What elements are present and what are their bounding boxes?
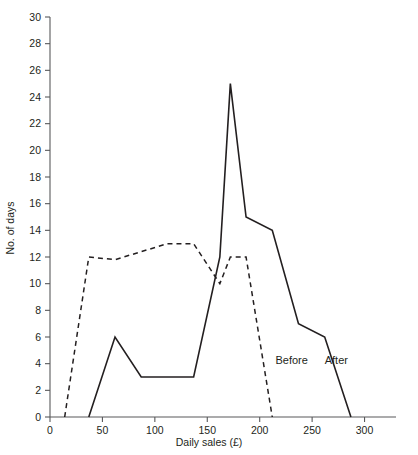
y-tick-label: 14: [29, 224, 41, 236]
x-tick-label: 250: [303, 424, 321, 436]
y-axis-tick-group: 024681012141618202224262830: [29, 11, 50, 423]
x-tick-label: 200: [251, 424, 269, 436]
y-tick-label: 0: [35, 411, 41, 423]
y-tick-label: 6: [35, 331, 41, 343]
y-tick-label: 18: [29, 171, 41, 183]
series-label-after: After: [325, 354, 349, 366]
x-tick-label: 300: [356, 424, 374, 436]
y-tick-label: 2: [35, 384, 41, 396]
series-label-before: Before: [275, 354, 307, 366]
y-tick-label: 28: [29, 37, 41, 49]
series-line-before: [65, 244, 273, 417]
y-tick-label: 20: [29, 144, 41, 156]
y-tick-label: 8: [35, 304, 41, 316]
x-tick-label: 100: [146, 424, 164, 436]
x-tick-label: 150: [199, 424, 217, 436]
y-tick-label: 4: [35, 357, 41, 369]
x-axis-title: Daily sales (£): [176, 436, 243, 448]
y-tick-label: 16: [29, 197, 41, 209]
chart-container: 024681012141618202224262830 050100150200…: [0, 0, 418, 455]
y-tick-label: 10: [29, 277, 41, 289]
y-tick-label: 24: [29, 91, 41, 103]
y-tick-label: 12: [29, 251, 41, 263]
y-tick-label: 30: [29, 11, 41, 23]
x-tick-label: 50: [97, 424, 109, 436]
x-tick-label: 0: [47, 424, 53, 436]
line-chart: 024681012141618202224262830 050100150200…: [0, 0, 418, 455]
x-axis-tick-group: 050100150200250300: [47, 417, 373, 436]
y-axis-title: No. of days: [4, 201, 16, 254]
y-tick-label: 26: [29, 64, 41, 76]
y-tick-label: 22: [29, 117, 41, 129]
series-line-after: [89, 84, 351, 417]
